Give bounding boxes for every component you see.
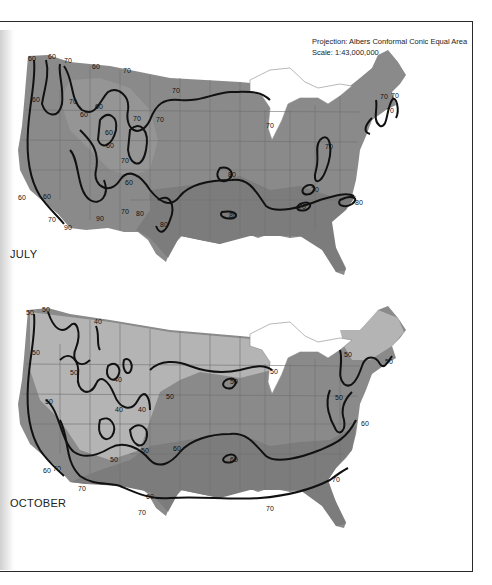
svg-text:40: 40 [115, 406, 123, 413]
svg-text:80: 80 [228, 171, 236, 178]
svg-text:60: 60 [146, 493, 154, 500]
svg-text:60: 60 [48, 53, 56, 60]
svg-text:50: 50 [26, 309, 34, 316]
svg-text:80: 80 [136, 210, 144, 217]
svg-text:60: 60 [43, 467, 51, 474]
svg-text:70: 70 [298, 203, 306, 210]
svg-text:50: 50 [344, 351, 352, 358]
svg-text:60: 60 [106, 142, 114, 149]
svg-text:60: 60 [43, 193, 51, 200]
svg-text:60: 60 [95, 103, 103, 110]
svg-text:60: 60 [361, 420, 369, 427]
october-label: OCTOBER [10, 497, 66, 509]
svg-text:60: 60 [18, 194, 26, 201]
svg-text:50: 50 [141, 447, 149, 454]
july-map: 606070 607070 607060 607070 606070 60606… [0, 0, 492, 290]
october-map: 505040 505040 405050 405050 606070 70607… [0, 290, 492, 585]
svg-text:70: 70 [123, 67, 131, 74]
svg-text:60: 60 [173, 445, 181, 452]
svg-text:90: 90 [64, 224, 72, 231]
svg-text:50: 50 [166, 393, 174, 400]
svg-text:70: 70 [53, 465, 61, 472]
svg-text:60: 60 [125, 179, 133, 186]
svg-text:70: 70 [380, 93, 388, 100]
svg-text:70: 70 [133, 115, 141, 122]
svg-text:70: 70 [266, 505, 274, 512]
svg-text:70: 70 [69, 98, 77, 105]
svg-text:70: 70 [172, 87, 180, 94]
svg-text:60: 60 [80, 111, 88, 118]
svg-text:60: 60 [105, 129, 113, 136]
svg-text:70: 70 [311, 186, 319, 193]
svg-text:70: 70 [48, 216, 56, 223]
svg-text:70: 70 [64, 57, 72, 64]
svg-text:50: 50 [270, 368, 278, 375]
svg-text:70: 70 [121, 157, 129, 164]
svg-text:50: 50 [45, 398, 53, 405]
svg-text:50: 50 [70, 369, 78, 376]
svg-text:60: 60 [32, 96, 40, 103]
svg-text:40: 40 [114, 376, 122, 383]
svg-text:40: 40 [94, 318, 102, 325]
svg-text:80: 80 [160, 221, 168, 228]
svg-text:50: 50 [385, 358, 393, 365]
svg-text:60: 60 [230, 456, 238, 463]
svg-text:60: 60 [92, 63, 100, 70]
svg-text:90: 90 [96, 215, 104, 222]
svg-text:40: 40 [138, 406, 146, 413]
svg-text:80: 80 [229, 212, 237, 219]
july-label: JULY [10, 248, 37, 260]
svg-text:70: 70 [386, 107, 394, 114]
svg-text:70: 70 [156, 116, 164, 123]
svg-text:50: 50 [335, 394, 343, 401]
svg-text:70: 70 [332, 476, 340, 483]
svg-text:50: 50 [32, 349, 40, 356]
svg-text:50: 50 [110, 456, 118, 463]
svg-text:70: 70 [138, 509, 146, 516]
svg-text:70: 70 [266, 122, 274, 129]
svg-text:50: 50 [230, 378, 238, 385]
svg-text:60: 60 [28, 55, 36, 62]
svg-text:70: 70 [78, 485, 86, 492]
svg-text:70: 70 [391, 92, 399, 99]
svg-text:70: 70 [325, 143, 333, 150]
svg-text:70: 70 [121, 208, 129, 215]
svg-text:80: 80 [355, 199, 363, 206]
svg-text:50: 50 [42, 306, 50, 313]
